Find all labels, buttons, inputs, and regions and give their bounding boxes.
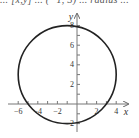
x-tick-label: −2	[53, 107, 62, 116]
y-tick-label: 4	[70, 60, 74, 69]
x-axis-label: x	[123, 106, 129, 117]
x-tick-label: 2	[95, 107, 99, 116]
x-tick-label: −4	[34, 107, 43, 116]
y-tick-label: 2	[70, 80, 74, 89]
y-axis-label: y	[68, 11, 74, 22]
y-tick-label: 8	[70, 21, 74, 30]
x-tick-label: −6	[14, 107, 23, 116]
x-tick-label: 4	[114, 107, 118, 116]
y-tick-label: 6	[70, 41, 74, 50]
circle-graph: −6 −4 −2 2 4 x 8 6 4 2 −2 y	[0, 0, 139, 138]
y-tick-label: −2	[65, 119, 74, 128]
